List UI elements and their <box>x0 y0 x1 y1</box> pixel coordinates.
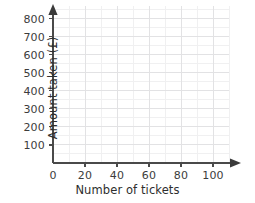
x-axis-title: Number of tickets <box>0 183 255 197</box>
y-axis-tick-label: 200 <box>0 120 45 133</box>
y-axis-tick-label: 800 <box>0 12 45 25</box>
y-axis-tick-label: 700 <box>0 30 45 43</box>
y-axis-title: Amount taken (£) <box>46 37 60 140</box>
x-axis-tick-label: 100 <box>202 169 224 182</box>
tick-label-layer: 100200300400500600700800020406080100 <box>0 0 255 203</box>
x-axis-tick-label: 20 <box>78 169 92 182</box>
x-axis-tick-label: 60 <box>142 169 156 182</box>
x-axis-tick-label: 80 <box>174 169 188 182</box>
y-axis-tick-label: 600 <box>0 48 45 61</box>
y-axis-tick-label: 500 <box>0 66 45 79</box>
origin-tick-label: 0 <box>49 169 56 182</box>
y-axis-tick-label: 400 <box>0 84 45 97</box>
chart-container: 100200300400500600700800020406080100 Num… <box>0 0 255 203</box>
y-axis-tick-label: 100 <box>0 138 45 151</box>
y-axis-tick-label: 300 <box>0 102 45 115</box>
x-axis-tick-label: 40 <box>110 169 124 182</box>
